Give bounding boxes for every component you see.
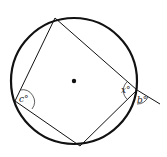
label-c: c° [19,94,29,104]
label-b: b° [137,95,147,105]
label-x: x° [121,85,131,95]
center-point [72,79,76,83]
diagram: c° x° b° [0,0,167,157]
